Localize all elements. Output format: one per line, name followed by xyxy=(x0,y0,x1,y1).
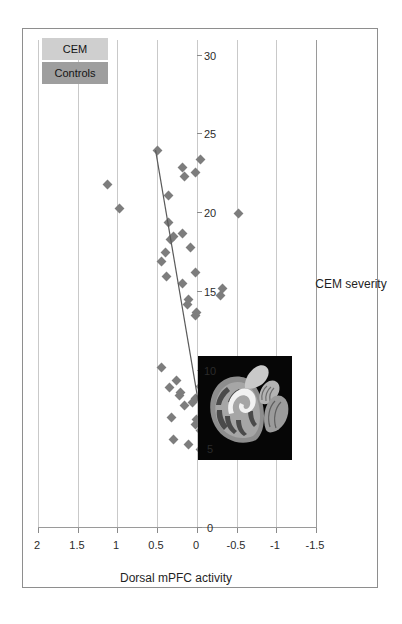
y-tick-5 xyxy=(237,528,238,533)
data-point xyxy=(178,163,188,173)
data-point xyxy=(152,145,162,155)
y-tick-3 xyxy=(157,528,158,533)
data-point xyxy=(180,172,190,182)
data-point xyxy=(163,191,173,201)
trendline xyxy=(38,228,188,528)
data-point xyxy=(233,208,243,218)
x-tick-label-6: 30 xyxy=(201,50,219,62)
x-tick-label-2: 10 xyxy=(201,365,219,377)
y-tick-label-1: 1.5 xyxy=(64,539,90,551)
rotated-chart-container: 051015202530 21.510.50-0.5-1-1.5 CEM sev… xyxy=(24,30,376,586)
legend-label-cem: CEM xyxy=(63,43,87,55)
y-tick-label-3: 0.5 xyxy=(143,539,169,551)
y-tick-6 xyxy=(276,528,277,533)
x-tick-label-0: 0 xyxy=(201,522,219,534)
x-tick-label-3: 15 xyxy=(201,286,219,298)
legend-label-controls: Controls xyxy=(55,67,96,79)
scatter-chart: 051015202530 21.510.50-0.5-1-1.5 CEM sev… xyxy=(24,30,376,586)
y-tick-label-5: -0.5 xyxy=(223,539,249,551)
data-point xyxy=(190,167,200,177)
y-tick-label-4: 0 xyxy=(183,539,209,551)
plot-area xyxy=(38,40,316,528)
x-tick-label-5: 25 xyxy=(201,128,219,140)
y-tick-0 xyxy=(38,528,39,533)
legend-item-controls[interactable]: Controls xyxy=(42,62,108,84)
y-tick-label-7: -1.5 xyxy=(302,539,328,551)
y-tick-4 xyxy=(197,528,198,533)
x-axis-title: CEM severity xyxy=(306,277,396,291)
y-axis-line xyxy=(38,527,316,528)
x-tick-label-4: 20 xyxy=(201,207,219,219)
y-tick-7 xyxy=(316,528,317,533)
y-tick-label-0: 2 xyxy=(24,539,50,551)
legend: Controls CEM xyxy=(42,38,108,84)
data-point xyxy=(103,180,113,190)
x-tick-label-1: 5 xyxy=(201,443,219,455)
y-tick-2 xyxy=(117,528,118,533)
legend-item-cem[interactable]: CEM xyxy=(42,38,108,60)
data-point xyxy=(115,204,125,214)
y-tick-label-6: -1 xyxy=(262,539,288,551)
data-point xyxy=(190,268,200,278)
y-axis-title: Dorsal mPFC activity xyxy=(106,571,246,585)
y-tick-label-2: 1 xyxy=(103,539,129,551)
figure-frame: 051015202530 21.510.50-0.5-1-1.5 CEM sev… xyxy=(22,28,378,588)
y-tick-1 xyxy=(78,528,79,533)
